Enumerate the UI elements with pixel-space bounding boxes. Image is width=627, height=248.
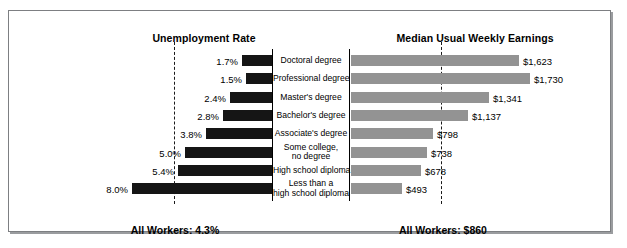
left-all-workers-footer: All Workers: 4.3% <box>101 224 249 236</box>
unemployment-bar <box>132 183 272 194</box>
earnings-bar <box>351 183 402 194</box>
plot-area: 1.7%$1,623Doctoral degree1.5%$1,730Profe… <box>9 49 612 201</box>
earnings-bar <box>351 92 489 103</box>
unemployment-value-label: 5.0% <box>123 148 181 159</box>
earnings-value-label: $798 <box>437 129 497 140</box>
unemployment-bar <box>230 92 272 103</box>
earnings-value-label: $1,137 <box>472 111 532 122</box>
category-label: Some college,no degree <box>273 143 349 163</box>
unemployment-bar <box>246 73 272 84</box>
unemployment-bar <box>185 147 272 158</box>
right-average-reference-line <box>441 42 442 204</box>
category-label: Less than ahigh school diploma <box>273 179 349 199</box>
unemployment-value-label: 1.7% <box>180 56 238 67</box>
earnings-bar <box>351 165 421 176</box>
earnings-value-label: $678 <box>425 166 485 177</box>
right-all-workers-footer: All Workers: $860 <box>369 224 517 236</box>
category-label: Bachelor's degree <box>273 111 349 121</box>
right-chart-title: Median Usual Weekly Earnings <box>361 32 589 44</box>
earnings-bar <box>351 55 519 66</box>
earnings-value-label: $493 <box>406 184 466 195</box>
unemployment-value-label: 1.5% <box>184 74 242 85</box>
unemployment-bar <box>178 165 272 176</box>
unemployment-value-label: 2.4% <box>168 93 226 104</box>
unemployment-bar <box>242 55 272 66</box>
category-label: Doctoral degree <box>273 56 349 66</box>
unemployment-bar <box>206 128 272 139</box>
category-label: High school diploma <box>273 166 349 176</box>
unemployment-value-label: 5.4% <box>116 166 174 177</box>
chart-panel: Unemployment Rate Median Usual Weekly Ea… <box>8 10 611 232</box>
earnings-value-label: $1,730 <box>534 74 594 85</box>
earnings-value-label: $1,341 <box>493 93 553 104</box>
earnings-bar <box>351 147 427 158</box>
earnings-bar <box>351 110 468 121</box>
earnings-value-label: $1,623 <box>523 56 583 67</box>
unemployment-value-label: 2.8% <box>161 111 219 122</box>
unemployment-bar <box>223 110 272 121</box>
left-average-reference-line <box>174 42 175 204</box>
earnings-value-label: $738 <box>431 148 491 159</box>
unemployment-value-label: 8.0% <box>70 184 128 195</box>
category-label: Professional degree <box>273 74 349 84</box>
category-label: Master's degree <box>273 93 349 103</box>
earnings-bar <box>351 73 530 84</box>
unemployment-value-label: 3.8% <box>144 129 202 140</box>
chart-screenshot: Unemployment Rate Median Usual Weekly Ea… <box>0 0 627 248</box>
left-chart-title: Unemployment Rate <box>131 32 277 44</box>
category-label: Associate's degree <box>273 129 349 139</box>
earnings-bar <box>351 128 433 139</box>
